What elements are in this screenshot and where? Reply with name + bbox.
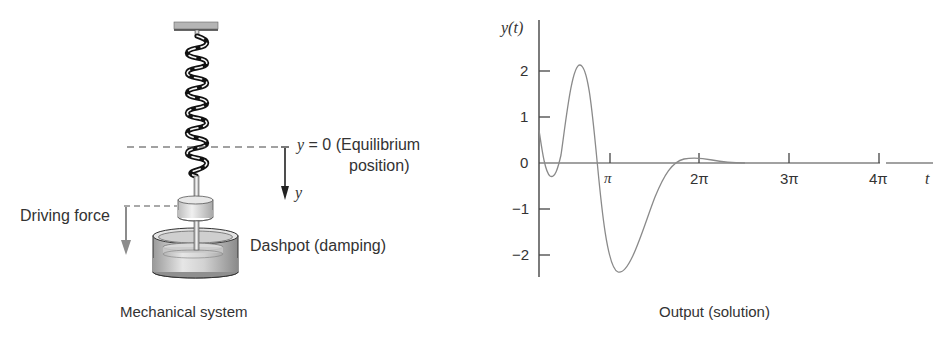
- y-axis-label: y(t): [501, 19, 523, 37]
- x-axis-ticks: [610, 153, 879, 163]
- y-direction-arrow-icon: [281, 148, 289, 200]
- x-tick-label: 2π: [690, 170, 709, 187]
- x-tick-label: π: [604, 170, 612, 187]
- equilibrium-label-line2: position): [349, 157, 409, 175]
- left-caption: Mechanical system: [120, 303, 248, 320]
- spring-icon: [187, 36, 207, 176]
- x-tick-text: 3π: [780, 170, 799, 187]
- mass-icon: [178, 196, 213, 221]
- equilibrium-text: = 0 (Equilibrium: [304, 136, 420, 153]
- piston-rod: [194, 221, 199, 250]
- right-caption: Output (solution): [659, 303, 770, 320]
- y-tick-label: 1: [520, 108, 528, 125]
- x-tick-text: 4π: [869, 170, 888, 187]
- y-direction-label: y: [295, 184, 302, 202]
- x-tick-label: 4π: [869, 170, 888, 187]
- spring-rod: [194, 176, 199, 197]
- driving-force-arrow-icon: [121, 207, 131, 255]
- y-tick-label: 2: [520, 62, 528, 79]
- y-tick-label: −1: [512, 200, 529, 217]
- x-tick-text: 2π: [690, 170, 709, 187]
- solution-curve: [539, 65, 745, 272]
- output-plot: [539, 20, 933, 277]
- figure-canvas: [0, 0, 949, 337]
- x-tick-label: 3π: [780, 170, 799, 187]
- x-axis-label: t: [925, 170, 929, 188]
- dashpot-label: Dashpot (damping): [250, 237, 386, 255]
- equilibrium-label-line1: y = 0 (Equilibrium: [297, 136, 420, 154]
- y-tick-label: 0: [520, 154, 528, 171]
- y-tick-label: −2: [512, 246, 529, 263]
- driving-force-label: Driving force: [20, 207, 110, 225]
